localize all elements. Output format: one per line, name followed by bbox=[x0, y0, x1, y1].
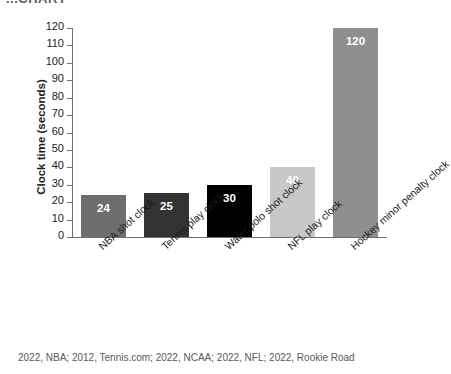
y-tick-label: 30 bbox=[52, 177, 64, 189]
y-tick-mark bbox=[67, 133, 72, 134]
y-tick-label: 120 bbox=[46, 20, 64, 32]
y-tick-mark bbox=[67, 98, 72, 99]
y-tick-label: 70 bbox=[52, 107, 64, 119]
y-tick-label: 100 bbox=[46, 55, 64, 67]
y-tick-mark bbox=[67, 185, 72, 186]
y-tick-label: 20 bbox=[52, 194, 64, 206]
y-tick-label: 110 bbox=[46, 37, 64, 49]
y-tick-label: 50 bbox=[52, 142, 64, 154]
bar-value-label: 120 bbox=[333, 35, 378, 47]
y-tick-mark bbox=[67, 167, 72, 168]
y-axis-line bbox=[72, 28, 73, 237]
y-tick-mark bbox=[67, 28, 72, 29]
cut-off-header-text: ...CHART bbox=[6, 0, 66, 6]
y-tick-mark bbox=[67, 115, 72, 116]
y-tick-mark bbox=[67, 45, 72, 46]
y-tick-mark bbox=[67, 150, 72, 151]
y-tick-mark bbox=[67, 63, 72, 64]
y-tick-mark bbox=[67, 202, 72, 203]
y-tick-mark bbox=[67, 80, 72, 81]
y-axis-title: Clock time (seconds) bbox=[35, 37, 47, 237]
y-tick-label: 80 bbox=[52, 90, 64, 102]
y-tick-label: 10 bbox=[52, 212, 64, 224]
bar-value-label: 24 bbox=[81, 202, 126, 214]
y-tick-mark bbox=[67, 220, 72, 221]
y-tick-label: 60 bbox=[52, 125, 64, 137]
y-tick-label: 0 bbox=[58, 229, 64, 241]
y-tick-label: 90 bbox=[52, 72, 64, 84]
source-note: 2022, NBA; 2012, Tennis.com; 2022, NCAA;… bbox=[18, 352, 355, 363]
y-tick-label: 40 bbox=[52, 159, 64, 171]
y-tick-mark bbox=[67, 237, 72, 238]
